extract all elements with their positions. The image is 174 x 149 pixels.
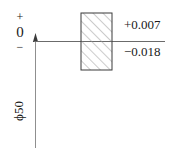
lower-deviation-label: −0.018 <box>124 44 161 60</box>
upper-deviation-label: +0.007 <box>124 17 161 33</box>
plus-sign-label: + <box>17 11 24 23</box>
zero-axis-label: 0 <box>16 25 24 40</box>
tolerance-zone-diagram: + 0 − +0.007 −0.018 ϕ50 <box>0 0 174 149</box>
arrow-head-up-icon <box>33 33 38 42</box>
tolerance-zone-rect-group <box>81 13 112 70</box>
axis-sign-stack: + 0 − <box>13 11 27 53</box>
dimension-line-group <box>33 33 38 148</box>
tolerance-zone-rect <box>81 13 112 70</box>
diameter-dimension-label: ϕ50 <box>11 84 27 138</box>
minus-sign-label: − <box>17 41 24 53</box>
